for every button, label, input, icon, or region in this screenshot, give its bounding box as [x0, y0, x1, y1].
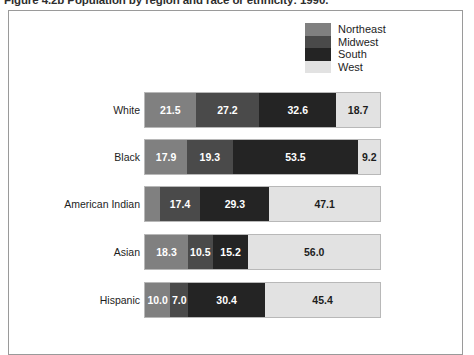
bar-row-label: Asian	[20, 246, 140, 258]
bar-segment: 7.0	[170, 283, 188, 317]
bar-segment: 47.1	[269, 187, 380, 221]
bar-segment: 56.0	[248, 235, 380, 269]
bar-row-label: Hispanic	[20, 294, 140, 306]
bar-segment: 17.4	[160, 187, 201, 221]
bar-row-label: American Indian	[20, 198, 140, 210]
stacked-bar: 17.919.353.59.2	[144, 139, 381, 175]
bar-segment	[145, 187, 160, 221]
bar-row: Asian18.310.515.256.0	[0, 234, 474, 270]
bar-segment: 18.3	[145, 235, 188, 269]
bar-segment: 18.7	[336, 93, 380, 127]
bar-row-label: Black	[20, 151, 140, 163]
stacked-bar: 18.310.515.256.0	[144, 234, 381, 270]
bar-row: Black17.919.353.59.2	[0, 139, 474, 175]
bar-segment: 45.4	[265, 283, 380, 317]
bar-row: American Indian17.429.347.1	[0, 186, 474, 222]
bar-segment: 53.5	[233, 140, 359, 174]
bar-segment: 32.6	[259, 93, 336, 127]
bar-row: White21.527.232.618.7	[0, 92, 474, 128]
bar-row-label: White	[20, 104, 140, 116]
bar-segment: 9.2	[358, 140, 380, 174]
bar-segment: 10.5	[188, 235, 213, 269]
bar-segment: 19.3	[187, 140, 232, 174]
stacked-bar: 21.527.232.618.7	[144, 92, 381, 128]
bar-segment: 29.3	[200, 187, 269, 221]
bar-segment: 21.5	[145, 93, 196, 127]
bar-segment: 27.2	[196, 93, 260, 127]
stacked-bar: 17.429.347.1	[144, 186, 381, 222]
bar-segment: 30.4	[188, 283, 265, 317]
bar-row: Hispanic10.07.030.445.4	[0, 282, 474, 318]
bar-segment: 10.0	[145, 283, 170, 317]
bar-segment: 17.9	[145, 140, 187, 174]
stacked-bar: 10.07.030.445.4	[144, 282, 381, 318]
bar-segment: 15.2	[213, 235, 249, 269]
